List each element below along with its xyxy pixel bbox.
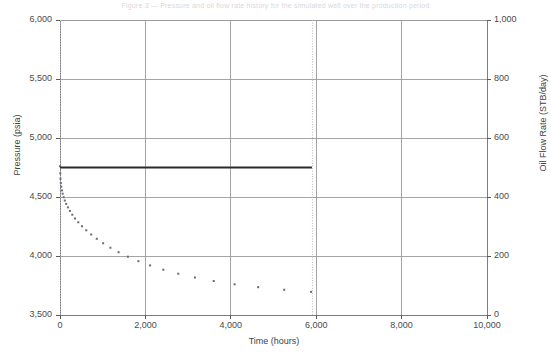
data-point (60, 182, 62, 184)
data-point (127, 256, 129, 258)
figure-canvas: Figure 3 — Pressure and oil flow rate hi… (0, 0, 551, 358)
data-point (63, 196, 65, 198)
data-point (60, 186, 62, 188)
data-point (69, 210, 71, 212)
data-point (310, 291, 312, 293)
data-point (213, 280, 215, 282)
x-axis-tick-label: 4,000 (201, 320, 261, 330)
data-point (81, 225, 83, 227)
data-point (59, 172, 61, 174)
data-point (77, 221, 79, 223)
x-axis-tick-label: 2,000 (115, 320, 175, 330)
y-axis-right-tick-label: 200 (494, 250, 540, 260)
y-axis-left-tick-label: 6,000 (6, 14, 52, 24)
data-point (177, 273, 179, 275)
x-axis-tick-label: 6,000 (286, 320, 346, 330)
y-axis-right-tick-label: 400 (494, 191, 540, 201)
y-axis-left-tick-label: 3,500 (6, 309, 52, 319)
y-axis-left-title: Pressure (psia) (12, 95, 22, 195)
y-axis-right-tick-label: 800 (494, 73, 540, 83)
y-axis-left-tick-label: 4,500 (6, 191, 52, 201)
x-axis-title: Time (hours) (60, 336, 488, 346)
data-point (118, 251, 120, 253)
data-point (162, 269, 164, 271)
data-point (102, 242, 104, 244)
data-point (109, 247, 111, 249)
y-axis-left-tick-label: 5,000 (6, 132, 52, 142)
y-axis-left-tick-label: 4,000 (6, 250, 52, 260)
data-point (194, 276, 196, 278)
series-scatter-pressure (59, 165, 312, 293)
data-point (71, 214, 73, 216)
data-point (61, 189, 63, 191)
y-axis-left-tick-label: 5,500 (6, 73, 52, 83)
data-point (74, 217, 76, 219)
x-axis-tick-label: 8,000 (372, 320, 432, 330)
data-point (85, 229, 87, 231)
data-point (90, 234, 92, 236)
y-axis-right-tick-label: 0 (494, 309, 540, 319)
data-point (64, 200, 66, 202)
x-axis-tick-label: 0 (30, 320, 90, 330)
data-point (65, 203, 67, 205)
y-axis-right-title: Oil Flow Rate (STB/day) (538, 48, 548, 198)
data-point (234, 283, 236, 285)
y-axis-right-tick-label: 1,000 (494, 14, 540, 24)
y-axis-right-tick-label: 600 (494, 132, 540, 142)
data-point (62, 193, 64, 195)
data-point (257, 286, 259, 288)
data-point (67, 206, 69, 208)
chart-svg (0, 0, 551, 358)
data-point (96, 238, 98, 240)
chart-plot-area (0, 0, 551, 358)
data-point (60, 178, 62, 180)
data-point (283, 289, 285, 291)
x-axis-tick-label: 10,000 (457, 320, 517, 330)
data-point (137, 260, 139, 262)
data-point (149, 264, 151, 266)
